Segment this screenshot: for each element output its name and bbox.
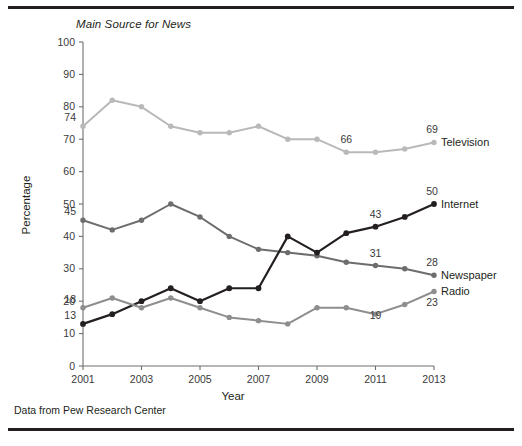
line-chart-svg: 0102030405060708090100200120032005200720… <box>0 0 522 446</box>
series-point-television <box>314 137 319 142</box>
x-axis-tick-label: 2003 <box>130 373 154 385</box>
series-point-internet <box>109 311 115 317</box>
series-point-radio <box>314 305 319 310</box>
point-annotation-radio-2013: 23 <box>426 296 438 308</box>
series-point-radio <box>344 305 349 310</box>
figure-page: Main Source for News 0102030405060708090… <box>0 0 522 446</box>
series-point-newspaper <box>285 250 290 255</box>
series-point-newspaper <box>168 201 173 206</box>
series-point-radio <box>256 318 261 323</box>
point-annotation-internet-2001: 13 <box>64 309 76 321</box>
series-point-newspaper <box>227 234 232 239</box>
x-axis-title: Year <box>221 390 244 402</box>
series-point-television <box>344 149 349 154</box>
point-annotation-newspaper-2011: 31 <box>370 247 382 259</box>
point-annotation-television-2010: 66 <box>340 133 352 145</box>
x-axis-tick-label: 2009 <box>305 373 329 385</box>
series-point-internet <box>343 230 349 236</box>
series-point-television <box>402 146 407 151</box>
series-point-television <box>373 149 378 154</box>
x-axis-tick-label: 2001 <box>71 373 95 385</box>
series-point-television <box>431 140 436 145</box>
x-axis-tick-label: 2007 <box>247 373 271 385</box>
series-point-internet <box>197 298 203 304</box>
series-end-label-newspaper: Newspaper <box>441 269 497 281</box>
series-group <box>80 98 437 327</box>
series-point-television <box>197 130 202 135</box>
series-point-internet <box>402 214 408 220</box>
point-annotations: 746669453128134350181923 <box>64 111 438 321</box>
series-point-television <box>256 124 261 129</box>
series-point-internet <box>139 298 145 304</box>
series-point-radio <box>227 315 232 320</box>
series-point-newspaper <box>256 247 261 252</box>
point-annotation-television-2001: 74 <box>64 111 76 123</box>
y-axis-tick-label: 60 <box>63 165 75 177</box>
series-point-television <box>80 124 85 129</box>
point-annotation-radio-2011: 19 <box>370 309 382 321</box>
series-point-radio <box>402 302 407 307</box>
point-annotation-internet-2011: 43 <box>370 208 382 220</box>
y-axis-tick-label: 90 <box>63 68 75 80</box>
series-point-newspaper <box>431 273 436 278</box>
chart-plot-area: 0102030405060708090100200120032005200720… <box>0 0 522 446</box>
series-end-labels: TelevisionNewspaperInternetRadio <box>441 136 497 297</box>
y-axis-tick-label: 100 <box>57 36 75 48</box>
series-point-newspaper <box>197 214 202 219</box>
series-point-radio <box>139 305 144 310</box>
y-axis-tick-label: 30 <box>63 262 75 274</box>
bottom-rule <box>8 428 514 431</box>
series-point-television <box>110 98 115 103</box>
x-axis-tick-label: 2013 <box>422 373 446 385</box>
series-point-internet <box>80 321 86 327</box>
series-point-internet <box>168 285 174 291</box>
series-point-internet <box>256 285 262 291</box>
series-point-internet <box>431 201 437 207</box>
series-point-internet <box>285 234 291 240</box>
y-axis-tick-label: 40 <box>63 230 75 242</box>
series-point-newspaper <box>344 260 349 265</box>
series-point-newspaper <box>110 227 115 232</box>
x-axis-tick-label: 2011 <box>364 373 387 385</box>
series-point-internet <box>314 250 320 256</box>
x-axis-tick-label: 2005 <box>188 373 212 385</box>
series-point-newspaper <box>373 263 378 268</box>
series-point-television <box>227 130 232 135</box>
y-axis-tick-label: 70 <box>63 133 75 145</box>
series-point-radio <box>431 289 436 294</box>
y-axis-tick-label: 0 <box>69 360 75 372</box>
series-point-radio <box>285 321 290 326</box>
series-point-television <box>285 137 290 142</box>
point-annotation-newspaper-2001: 45 <box>64 205 76 217</box>
series-point-newspaper <box>139 218 144 223</box>
y-axis-title: Percentage <box>20 176 32 235</box>
series-point-internet <box>373 224 379 230</box>
series-end-label-radio: Radio <box>441 285 470 297</box>
source-caption: Data from Pew Research Center <box>14 404 166 416</box>
series-point-television <box>168 124 173 129</box>
y-axis-tick-label: 10 <box>63 327 75 339</box>
series-point-newspaper <box>402 266 407 271</box>
series-point-radio <box>110 295 115 300</box>
point-annotation-radio-2001: 18 <box>64 293 76 305</box>
series-point-radio <box>80 305 85 310</box>
axes-group: 0102030405060708090100200120032005200720… <box>57 36 445 385</box>
series-point-television <box>139 104 144 109</box>
point-annotation-television-2013: 69 <box>426 123 438 135</box>
series-end-label-television: Television <box>441 136 489 148</box>
series-point-radio <box>168 295 173 300</box>
series-line-newspaper <box>83 204 434 275</box>
series-point-radio <box>197 305 202 310</box>
point-annotation-internet-2013: 50 <box>426 185 438 197</box>
series-point-internet <box>226 285 232 291</box>
series-point-newspaper <box>80 218 85 223</box>
series-end-label-internet: Internet <box>441 198 478 210</box>
point-annotation-newspaper-2013: 28 <box>426 256 438 268</box>
